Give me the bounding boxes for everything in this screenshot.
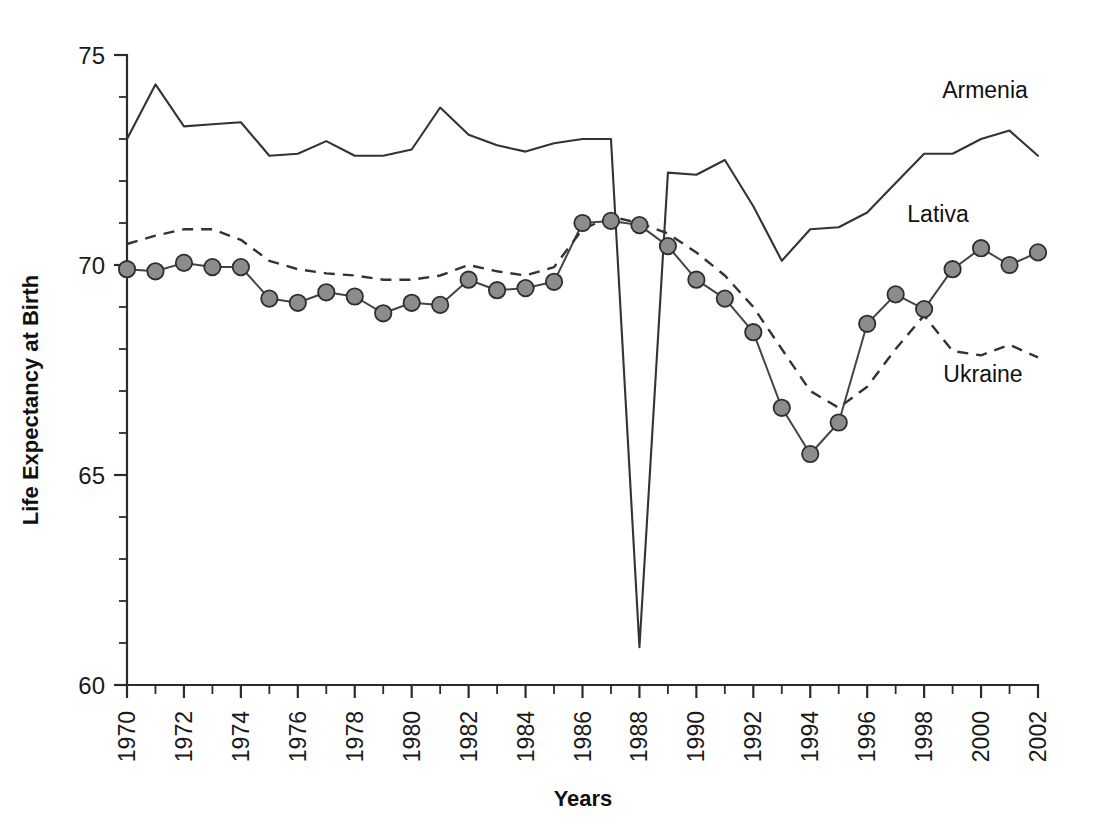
series-label-ukraine: Ukraine	[943, 361, 1022, 387]
data-point-marker	[660, 238, 676, 254]
data-point-marker	[290, 295, 306, 311]
data-point-marker	[859, 316, 875, 332]
data-point-marker	[204, 259, 220, 275]
y-tick-label: 75	[78, 42, 105, 69]
life-expectancy-chart: 60657075 1970197219741976197819801982198…	[0, 0, 1096, 824]
data-point-marker	[916, 301, 932, 317]
data-point-marker	[347, 288, 363, 304]
chart-markers-layer	[119, 213, 1046, 462]
x-tick-label: 1986	[570, 711, 596, 762]
series-label-lativa: Lativa	[907, 201, 969, 227]
data-point-marker	[1030, 244, 1046, 260]
data-point-marker	[631, 217, 647, 233]
data-point-marker	[944, 261, 960, 277]
x-tick-label: 1978	[342, 711, 368, 762]
x-tick-label: 1988	[626, 711, 652, 762]
x-tick-label: 1990	[683, 711, 709, 762]
series-line-armenia	[127, 84, 1038, 647]
x-tick-label: 1982	[456, 711, 482, 762]
chart-axes	[114, 55, 1038, 698]
x-tick-label: 1976	[285, 711, 311, 762]
data-point-marker	[147, 263, 163, 279]
x-tick-label: 1998	[911, 711, 937, 762]
x-tick-label: 1992	[740, 711, 766, 762]
data-point-marker	[973, 240, 989, 256]
data-point-marker	[403, 295, 419, 311]
data-point-marker	[802, 446, 818, 462]
chart-canvas: 60657075 1970197219741976197819801982198…	[0, 0, 1096, 824]
data-point-marker	[1001, 257, 1017, 273]
data-point-marker	[574, 215, 590, 231]
data-point-marker	[717, 290, 733, 306]
data-point-marker	[318, 284, 334, 300]
x-tick-label: 2000	[968, 711, 994, 762]
x-tick-label: 1970	[114, 711, 140, 762]
data-point-marker	[261, 290, 277, 306]
y-tick-label: 65	[78, 462, 105, 489]
data-point-marker	[887, 286, 903, 302]
x-tick-label: 1980	[399, 711, 425, 762]
x-tick-label: 1994	[797, 711, 823, 762]
x-axis-title: Years	[554, 786, 613, 811]
data-point-marker	[489, 282, 505, 298]
data-point-marker	[688, 272, 704, 288]
x-tick-label: 1996	[854, 711, 880, 762]
y-axis-tick-labels: 60657075	[78, 42, 105, 699]
data-point-marker	[831, 414, 847, 430]
data-point-marker	[517, 280, 533, 296]
x-tick-label: 2002	[1025, 711, 1051, 762]
y-tick-label: 60	[78, 672, 105, 699]
data-point-marker	[233, 259, 249, 275]
data-point-marker	[432, 297, 448, 313]
series-line-lativa	[127, 221, 1038, 454]
chart-series-layer	[127, 84, 1038, 647]
data-point-marker	[119, 261, 135, 277]
x-tick-label: 1972	[171, 711, 197, 762]
data-point-marker	[546, 274, 562, 290]
data-point-marker	[774, 400, 790, 416]
x-axis-tick-labels: 1970197219741976197819801982198419861988…	[114, 711, 1051, 762]
data-point-marker	[176, 255, 192, 271]
x-tick-label: 1974	[228, 711, 254, 762]
data-point-marker	[375, 305, 391, 321]
series-annotations: ArmeniaLativaUkraine	[907, 77, 1028, 387]
series-label-armenia: Armenia	[942, 77, 1028, 103]
series-line-ukraine	[127, 217, 1038, 408]
data-point-marker	[603, 213, 619, 229]
y-axis-title: Life Expectancy at Birth	[18, 275, 43, 526]
x-tick-label: 1984	[513, 711, 539, 762]
data-point-marker	[460, 272, 476, 288]
data-point-marker	[745, 324, 761, 340]
y-tick-label: 70	[78, 252, 105, 279]
